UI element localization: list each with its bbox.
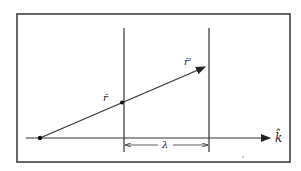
k-hat-label: k̂ <box>275 128 282 145</box>
origin-point <box>38 136 42 140</box>
wave-plane-diagram: k̂ r̄ r̄' λ <box>0 0 301 171</box>
frame-border <box>17 14 290 162</box>
stray-dot <box>242 156 243 157</box>
intersection-point <box>120 101 124 105</box>
r-prime-vector-label: r̄' <box>184 56 192 67</box>
wavelength-label: λ <box>161 139 168 150</box>
r-vector-label: r̄ <box>103 92 109 103</box>
